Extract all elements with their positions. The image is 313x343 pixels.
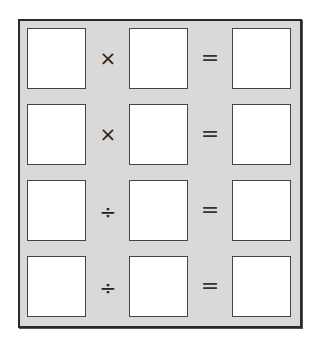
equals-sign: = <box>195 119 225 149</box>
result-box-4[interactable] <box>232 256 291 317</box>
result-box-2[interactable] <box>232 104 291 165</box>
multiply-sign: × <box>93 119 123 149</box>
equals-sign: = <box>195 195 225 225</box>
result-box-3[interactable] <box>232 180 291 241</box>
operand-box-4-b[interactable] <box>129 256 188 317</box>
divide-sign: ÷ <box>93 197 123 227</box>
operand-box-2-a[interactable] <box>27 104 86 165</box>
equals-sign: = <box>195 43 225 73</box>
operand-box-1-a[interactable] <box>27 28 86 89</box>
operand-box-1-b[interactable] <box>129 28 188 89</box>
result-box-1[interactable] <box>232 28 291 89</box>
worksheet-frame: × = × = ÷ = ÷ = <box>18 19 302 328</box>
operand-box-3-b[interactable] <box>129 180 188 241</box>
multiply-sign: × <box>93 43 123 73</box>
equals-sign: = <box>195 271 225 301</box>
divide-sign: ÷ <box>93 273 123 303</box>
operand-box-2-b[interactable] <box>129 104 188 165</box>
operand-box-4-a[interactable] <box>27 256 86 317</box>
operand-box-3-a[interactable] <box>27 180 86 241</box>
